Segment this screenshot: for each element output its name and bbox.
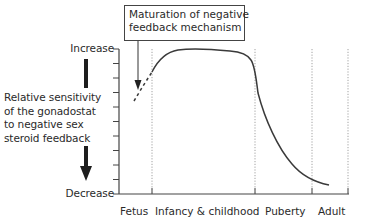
sensitivity-curve: [152, 49, 329, 185]
stage-label-infancy-childhood: Infancy & childhood: [155, 205, 259, 217]
x-axis-ticks: [152, 188, 348, 194]
stage-label-adult: Adult: [318, 205, 345, 217]
y-axis-title-line: steroid feedback: [4, 132, 116, 146]
y-axis-bottom-label: Decrease: [30, 187, 114, 199]
y-axis-title-line: of the gonadostat: [4, 105, 116, 119]
annotation-line: feedback mechanism: [129, 21, 240, 34]
stage-label-fetus: Fetus: [120, 205, 148, 217]
stage-dividers: [152, 49, 348, 194]
annotation-line: Maturation of negative: [129, 8, 240, 21]
y-axis-title-line: Relative sensitivity: [4, 91, 116, 105]
annotation-box: Maturation of negative feedback mechanis…: [124, 5, 245, 41]
fetal-dashed-curve: [134, 72, 152, 101]
increase-arrow-bar: [84, 59, 88, 88]
y-axis-top-label: Increase: [34, 42, 114, 54]
sensitivity-diagram: Increase Relative sensitivity of the gon…: [0, 0, 369, 222]
decrease-arrow-icon: [80, 146, 92, 181]
y-axis-title-line: to negative sex: [4, 118, 116, 132]
stage-label-puberty: Puberty: [265, 205, 306, 217]
y-axis-title: Relative sensitivity of the gonadostat t…: [4, 91, 116, 145]
annotation-arrow-icon: [135, 41, 142, 90]
